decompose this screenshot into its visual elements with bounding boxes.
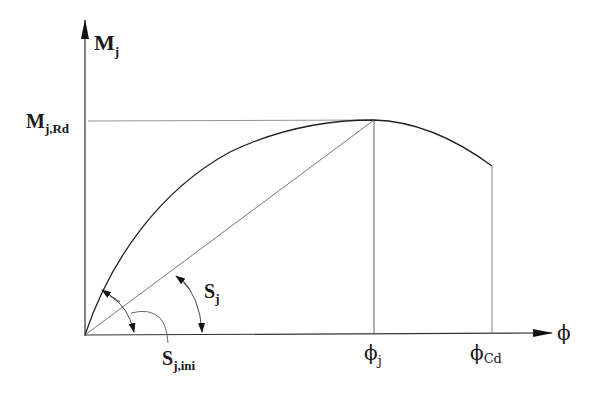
moment-rotation-curve xyxy=(85,120,492,335)
moment-rotation-diagram: Mj Mj,Rd Sj Sj,ini ϕj ϕCd ϕ xyxy=(0,0,598,400)
moment-resistance-line xyxy=(88,120,374,121)
secant-stiffness-arc-arrow-tail xyxy=(176,276,190,290)
x-axis-label: ϕ xyxy=(557,321,571,345)
y-axis-label: Mj xyxy=(94,30,119,59)
rotation-cd-label: ϕCd xyxy=(470,341,502,366)
rotation-j-label: ϕj xyxy=(364,341,382,368)
secant-stiffness-label: Sj xyxy=(204,280,219,306)
secant-stiffness-arc-arrow xyxy=(180,277,202,332)
initial-stiffness-arc-arrow-tail xyxy=(102,290,120,302)
initial-stiffness-leader xyxy=(131,311,168,343)
moment-resistance-label: Mj,Rd xyxy=(26,110,70,136)
initial-stiffness-label: Sj,ini xyxy=(162,347,196,373)
x-axis xyxy=(85,333,552,335)
